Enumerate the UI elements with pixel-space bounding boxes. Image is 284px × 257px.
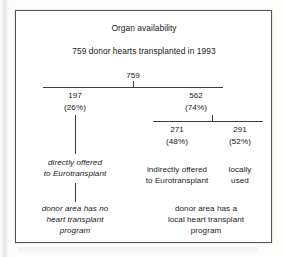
level2-note-line3: program <box>191 225 222 236</box>
level2-left-value: 271 <box>170 124 184 135</box>
level2-note-line2: local heart transplant <box>168 214 244 225</box>
level1-left-note-line1: donor area has no <box>42 203 109 214</box>
level1-left-note-line2: heart transplant <box>46 214 103 225</box>
level2-left-label-line2: to Eurotransplant <box>146 175 209 186</box>
level1-left-stem-lower <box>75 183 76 202</box>
scan-smudge-artifact <box>18 247 258 254</box>
level1-left-label-line1: directly offered <box>48 157 102 168</box>
level1-split-bar <box>43 87 223 88</box>
level1-left-percent: (26%) <box>64 102 86 113</box>
level2-left-percent: (48%) <box>166 136 188 147</box>
level1-right-percent: (74%) <box>185 102 207 113</box>
level2-right-label-line2: used <box>231 175 249 186</box>
root-value: 759 <box>126 70 140 81</box>
level2-right-label-line1: locally <box>229 164 252 175</box>
level2-right-percent: (52%) <box>229 136 251 147</box>
scanned-page: Organ availability 759 donor hearts tran… <box>0 0 284 257</box>
level1-left-label-line2: to Eurotransplant <box>44 168 107 179</box>
diagram-title: Organ availability <box>111 23 176 34</box>
diagram-frame: Organ availability 759 donor hearts tran… <box>15 10 272 243</box>
level2-left-label-line1: indirectly offered <box>147 164 207 175</box>
level1-right-value: 562 <box>189 90 203 101</box>
level2-split-bar <box>153 121 263 122</box>
level1-left-stem-upper <box>75 115 76 154</box>
level2-right-value: 291 <box>233 124 247 135</box>
level1-left-note-line3: program <box>60 225 91 236</box>
scan-streak-artifact <box>0 0 9 257</box>
level2-note-line1: donor area has a <box>175 203 237 214</box>
diagram-subtitle: 759 donor hearts transplanted in 1993 <box>72 46 215 57</box>
level1-left-value: 197 <box>68 90 82 101</box>
